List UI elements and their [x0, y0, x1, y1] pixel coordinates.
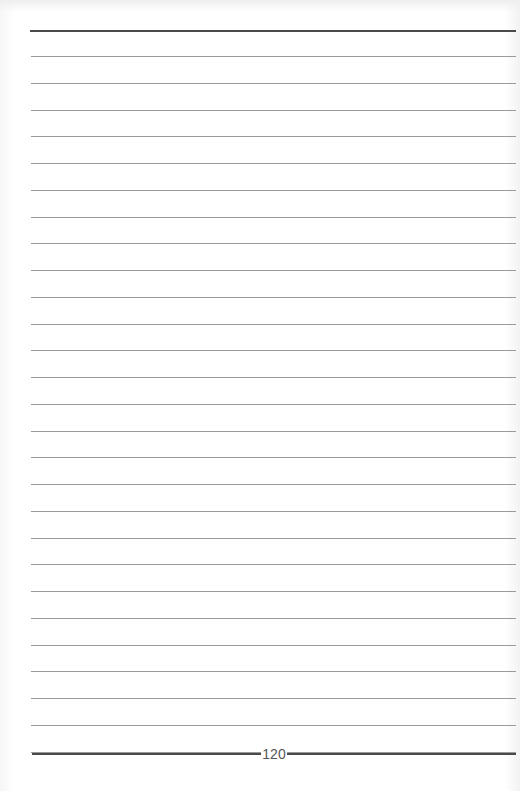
page-number: 120	[261, 747, 286, 761]
ruled-line	[31, 431, 516, 432]
ruled-line	[31, 163, 516, 164]
footer-rule-right	[287, 753, 516, 755]
ruled-line	[31, 350, 516, 351]
ruled-line	[31, 297, 516, 298]
ruled-line	[31, 324, 516, 325]
ruled-line	[31, 243, 516, 244]
ruled-line	[31, 270, 516, 271]
ruled-line	[31, 591, 516, 592]
ruled-line	[31, 538, 516, 539]
ruled-line	[31, 725, 516, 726]
ruled-line	[31, 377, 516, 378]
ruled-line	[31, 457, 516, 458]
ruled-line	[31, 190, 516, 191]
footer-rule-left	[32, 753, 261, 755]
ruled-line	[31, 110, 516, 111]
page-edge-shadow	[0, 0, 520, 12]
page-footer: 120	[32, 753, 516, 755]
ruled-line	[31, 698, 516, 699]
ruled-line	[31, 618, 516, 619]
ruled-line	[31, 484, 516, 485]
ruled-line	[31, 511, 516, 512]
ruled-line	[31, 404, 516, 405]
ruled-line	[31, 56, 516, 57]
ruled-line	[31, 671, 516, 672]
ruled-line	[31, 83, 516, 84]
notebook-page: 120	[0, 0, 520, 791]
ruled-line	[31, 217, 516, 218]
ruled-line	[31, 136, 516, 137]
header-rule	[30, 30, 516, 32]
ruled-line	[31, 645, 516, 646]
ruled-line	[31, 564, 516, 565]
